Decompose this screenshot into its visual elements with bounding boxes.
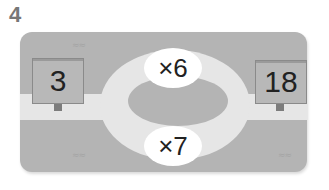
grass-mark-icon: ≈≈ bbox=[72, 40, 85, 50]
start-sign: 3 bbox=[32, 58, 84, 104]
operation-bubble-top: ×6 bbox=[144, 48, 202, 88]
puzzle-board: ≈≈ ≈≈ ≈≈ 3 18 ×6 ×7 bbox=[20, 32, 307, 172]
end-sign: 18 bbox=[255, 60, 307, 104]
problem-number: 4 bbox=[9, 2, 21, 28]
operation-bubble-bottom: ×7 bbox=[144, 126, 202, 166]
start-sign-post bbox=[54, 104, 62, 111]
end-sign-post bbox=[276, 104, 284, 111]
grass-mark-icon: ≈≈ bbox=[278, 150, 291, 160]
grass-mark-icon: ≈≈ bbox=[72, 150, 85, 160]
